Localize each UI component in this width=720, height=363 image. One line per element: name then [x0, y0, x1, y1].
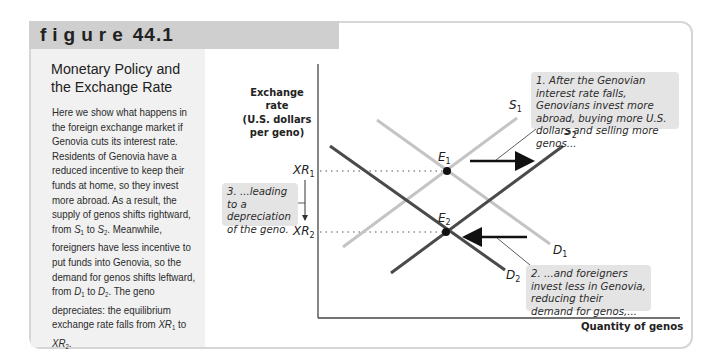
label-xr1: XR1 — [293, 163, 315, 179]
callout-supply-shift: 1. After the Genovian interest rate fall… — [531, 72, 679, 129]
supply-curve-s1 — [343, 118, 517, 247]
callout1-leader — [496, 129, 536, 160]
callout-demand-shift: 2. ...and foreigners invest less in Geno… — [526, 265, 651, 311]
label-e2: E2 — [438, 211, 451, 227]
equilibrium-e1 — [443, 167, 451, 175]
label-xr2: XR2 — [293, 224, 315, 240]
x-axis-label: Quantity of genos — [581, 320, 683, 333]
label-s1: S1 — [509, 98, 522, 114]
equilibrium-e2 — [442, 228, 450, 236]
label-d2: D2 — [506, 268, 520, 284]
callout-depreciation: 3. ...leading to a depreciation of the g… — [222, 183, 298, 226]
callout2-leader — [497, 238, 530, 265]
label-d1: D1 — [553, 243, 567, 259]
supply-curve-s2 — [391, 146, 563, 273]
label-e1: E1 — [438, 150, 451, 166]
